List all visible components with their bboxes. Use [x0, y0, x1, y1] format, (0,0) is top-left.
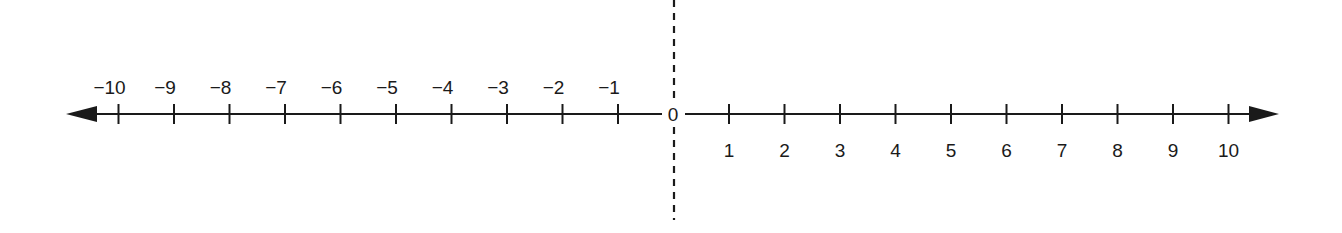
origin-label: 0 — [668, 104, 679, 125]
tick-labels: −10−9−8−7−6−5−4−3−2−112345678910 — [93, 77, 1239, 161]
tick-label: −7 — [265, 77, 287, 98]
tick-label: 9 — [1168, 140, 1179, 161]
tick-label: 10 — [1218, 140, 1239, 161]
tick-label: 7 — [1057, 140, 1068, 161]
tick-label: 5 — [946, 140, 957, 161]
tick-label: 8 — [1112, 140, 1123, 161]
tick-label: −1 — [598, 77, 620, 98]
tick-label: −10 — [93, 77, 125, 98]
tick-label: 6 — [1001, 140, 1012, 161]
tick-label: −3 — [487, 77, 509, 98]
tick-label: 3 — [835, 140, 846, 161]
tick-label: −9 — [154, 77, 176, 98]
tick-label: 4 — [890, 140, 901, 161]
tick-label: −8 — [210, 77, 232, 98]
right-arrowhead-icon — [1249, 106, 1279, 122]
left-arrowhead-icon — [66, 106, 97, 122]
tick-label: 1 — [724, 140, 735, 161]
tick-label: −4 — [432, 77, 454, 98]
tick-label: 2 — [779, 140, 790, 161]
tick-label: −2 — [543, 77, 565, 98]
tick-label: −6 — [321, 77, 343, 98]
number-line-diagram: −10−9−8−7−6−5−4−3−2−112345678910 0 — [0, 0, 1342, 233]
tick-label: −5 — [376, 77, 398, 98]
